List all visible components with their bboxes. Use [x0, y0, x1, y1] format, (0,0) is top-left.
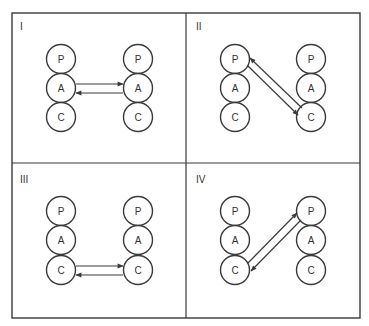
- ego-state-a: A: [297, 74, 326, 103]
- transaction-diagram: IPACPACIIPACPACIIIPACPACIVPACPAC: [0, 0, 369, 326]
- ego-state-label: A: [232, 235, 239, 246]
- ego-state-label: C: [231, 265, 238, 276]
- quadrant-iv: IVPACPAC: [196, 174, 326, 285]
- ego-state-label: C: [307, 265, 314, 276]
- ego-state-c: C: [221, 103, 250, 132]
- ego-state-a: A: [124, 226, 153, 255]
- response-arrow: [250, 58, 302, 108]
- ego-state-label: P: [308, 206, 315, 217]
- quadrant-label: III: [20, 174, 28, 185]
- person-left: PAC: [221, 197, 250, 285]
- ego-state-a: A: [221, 74, 250, 103]
- person-right: PAC: [124, 45, 153, 132]
- ego-state-label: P: [232, 54, 239, 65]
- ego-state-label: A: [308, 235, 315, 246]
- stimulus-arrow: [248, 213, 297, 263]
- ego-state-label: P: [135, 206, 142, 217]
- ego-state-c: C: [221, 256, 250, 285]
- ego-state-label: A: [135, 235, 142, 246]
- ego-state-label: A: [135, 83, 142, 94]
- ego-state-p: P: [221, 45, 250, 74]
- ego-state-a: A: [47, 226, 76, 255]
- ego-state-c: C: [124, 103, 153, 132]
- ego-state-c: C: [47, 103, 76, 132]
- quadrant-label: I: [20, 21, 23, 32]
- ego-state-p: P: [221, 197, 250, 226]
- ego-state-label: A: [308, 83, 315, 94]
- ego-state-p: P: [47, 45, 76, 74]
- person-left: PAC: [221, 45, 250, 132]
- quadrant-i: IPACPAC: [20, 21, 153, 132]
- ego-state-p: P: [297, 45, 326, 74]
- ego-state-a: A: [297, 226, 326, 255]
- ego-state-a: A: [221, 226, 250, 255]
- person-left: PAC: [47, 45, 76, 132]
- person-left: PAC: [47, 197, 76, 285]
- ego-state-label: C: [231, 112, 238, 123]
- ego-state-label: P: [308, 54, 315, 65]
- person-right: PAC: [124, 197, 153, 285]
- ego-state-label: A: [58, 83, 65, 94]
- ego-state-label: C: [134, 265, 141, 276]
- quadrant-label: IV: [196, 174, 206, 185]
- ego-state-label: C: [134, 112, 141, 123]
- ego-state-a: A: [47, 74, 76, 103]
- ego-state-c: C: [124, 256, 153, 285]
- ego-state-c: C: [297, 256, 326, 285]
- ego-state-label: P: [135, 54, 142, 65]
- person-right: PAC: [297, 197, 326, 285]
- response-arrow: [251, 220, 301, 271]
- ego-state-label: A: [232, 83, 239, 94]
- ego-state-p: P: [124, 197, 153, 226]
- quadrants: IPACPACIIPACPACIIIPACPACIVPACPAC: [20, 21, 326, 285]
- quadrant-iii: IIIPACPAC: [20, 174, 153, 285]
- ego-state-label: A: [58, 235, 65, 246]
- ego-state-label: P: [58, 54, 65, 65]
- quadrant-label: II: [196, 21, 202, 32]
- ego-state-label: P: [232, 206, 239, 217]
- ego-state-label: C: [307, 112, 314, 123]
- ego-state-p: P: [47, 197, 76, 226]
- ego-state-label: C: [57, 112, 64, 123]
- stimulus-arrow: [248, 66, 298, 115]
- person-right: PAC: [297, 45, 326, 132]
- ego-state-a: A: [124, 74, 153, 103]
- ego-state-p: P: [124, 45, 153, 74]
- ego-state-p: P: [297, 197, 326, 226]
- ego-state-label: C: [57, 265, 64, 276]
- ego-state-label: P: [58, 206, 65, 217]
- ego-state-c: C: [47, 256, 76, 285]
- quadrant-ii: IIPACPAC: [196, 21, 326, 132]
